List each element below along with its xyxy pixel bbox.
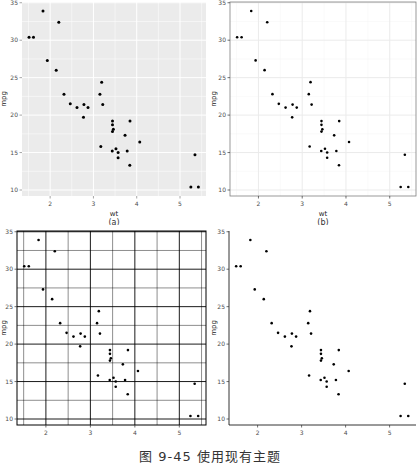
data-point: [310, 332, 313, 335]
y-tick-label: 10: [217, 415, 225, 422]
x-axis-title: wt: [319, 210, 328, 218]
data-point: [111, 150, 114, 153]
data-point: [295, 335, 298, 338]
x-axis-title: wt: [318, 439, 327, 440]
data-point: [128, 164, 131, 167]
data-point: [109, 353, 112, 356]
data-point: [137, 370, 140, 373]
data-point: [320, 130, 323, 133]
data-point: [320, 150, 323, 153]
data-point: [323, 377, 326, 380]
data-point: [79, 345, 82, 348]
data-point: [32, 36, 35, 39]
y-tick-label: 25: [218, 74, 226, 81]
data-point: [193, 153, 196, 156]
data-point: [62, 93, 65, 96]
data-point: [65, 332, 68, 335]
data-point: [99, 145, 102, 148]
data-point: [126, 393, 129, 396]
plot-background: [22, 2, 206, 196]
data-point: [324, 148, 327, 151]
data-point: [326, 156, 329, 159]
data-point: [309, 310, 312, 313]
data-point: [284, 106, 287, 109]
data-point: [277, 332, 280, 335]
data-point: [82, 103, 85, 106]
y-tick-label: 15: [217, 378, 225, 385]
data-point: [114, 380, 117, 383]
data-point: [189, 186, 192, 189]
data-point: [291, 103, 294, 106]
data-point: [321, 128, 324, 131]
data-point: [254, 59, 257, 62]
x-tick-label: 4: [344, 429, 348, 436]
data-point: [110, 357, 113, 360]
data-point: [189, 415, 192, 418]
data-point: [97, 374, 100, 377]
data-point: [87, 106, 90, 109]
panel-c: 2345101520253035wtmpg(c): [0, 225, 210, 440]
data-point: [320, 120, 323, 123]
data-point: [112, 377, 115, 380]
y-tick-label: 35: [10, 0, 18, 6]
data-point: [290, 345, 293, 348]
y-tick-label: 30: [10, 36, 18, 43]
data-point: [23, 265, 26, 268]
data-point: [403, 383, 406, 386]
data-point: [101, 103, 104, 106]
data-point: [240, 36, 243, 39]
data-point: [249, 239, 252, 242]
y-tick-label: 25: [217, 303, 225, 310]
data-point: [239, 265, 242, 268]
y-tick-label: 35: [217, 228, 225, 235]
y-axis-title: mpg: [0, 91, 8, 107]
y-tick-label: 20: [5, 340, 13, 347]
x-tick-label: 2: [257, 200, 261, 207]
x-tick-label: 2: [44, 429, 48, 436]
data-point: [236, 36, 239, 39]
data-point: [57, 21, 60, 24]
data-point: [307, 322, 310, 325]
data-point: [291, 116, 294, 119]
x-axis-title: wt: [110, 210, 119, 218]
data-point: [197, 186, 200, 189]
x-tick-label: 5: [388, 429, 392, 436]
y-tick-label: 35: [5, 228, 13, 235]
data-point: [270, 322, 273, 325]
data-point: [100, 81, 103, 84]
data-point: [348, 141, 351, 144]
data-point: [111, 123, 114, 126]
y-tick-label: 20: [218, 111, 226, 118]
y-tick-label: 20: [10, 111, 18, 118]
figure-caption: 图 9-45 使用现有主题: [0, 446, 420, 465]
data-point: [307, 93, 310, 96]
data-point: [75, 106, 78, 109]
x-tick-label: 3: [88, 429, 92, 436]
data-point: [338, 120, 341, 123]
data-point: [404, 154, 407, 157]
y-tick-label: 20: [217, 340, 225, 347]
y-axis-title: mpg: [0, 320, 8, 336]
data-point: [117, 151, 120, 154]
data-point: [109, 359, 112, 362]
data-point: [262, 298, 265, 301]
data-point: [308, 374, 311, 377]
y-axis-title: mpg: [210, 91, 218, 107]
y-tick-label: 15: [10, 149, 18, 156]
x-tick-label: 4: [135, 200, 139, 207]
panel-d: 2345101520253035wtmpg(d): [210, 225, 420, 440]
data-point: [126, 150, 129, 153]
panel-border: [17, 231, 206, 425]
data-point: [266, 21, 269, 24]
x-tick-label: 3: [300, 429, 304, 436]
data-point: [310, 103, 313, 106]
data-point: [335, 150, 338, 153]
data-point: [82, 116, 85, 119]
y-axis-title: mpg: [210, 320, 218, 336]
data-point: [320, 349, 323, 352]
scatter-plot-c: 2345101520253035wtmpg(c): [0, 225, 210, 440]
data-point: [59, 322, 62, 325]
data-point: [114, 385, 117, 388]
y-tick-label: 10: [5, 415, 13, 422]
data-point: [277, 103, 280, 106]
